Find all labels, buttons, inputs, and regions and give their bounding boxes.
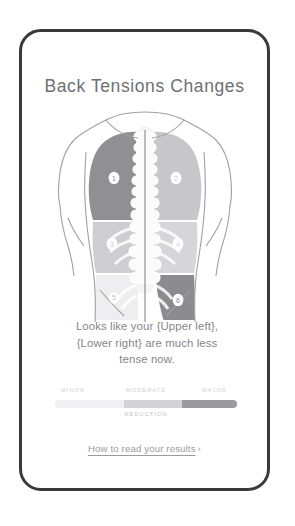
legend-segment-major xyxy=(182,400,237,408)
zone-5-marker[interactable]: 5 xyxy=(109,292,119,304)
svg-text:2: 2 xyxy=(174,175,178,182)
zone-4-marker[interactable]: 4 xyxy=(172,238,183,250)
chevron-right-icon: › xyxy=(198,443,201,454)
reduction-legend: MINOR MODERATE MAJOR REDUCTION xyxy=(55,387,237,417)
footer-link-row: How to read your results› xyxy=(22,438,267,456)
legend-label-moderate: MODERATE xyxy=(126,387,166,393)
how-to-read-results-link[interactable]: How to read your results› xyxy=(88,443,201,454)
zone-3-marker[interactable]: 3 xyxy=(106,238,117,250)
legend-label-major: MAJOR xyxy=(202,387,227,393)
svg-text:1: 1 xyxy=(112,175,116,182)
legend-gradient-bar xyxy=(55,400,237,408)
summary-line-3: tense now. xyxy=(40,351,254,368)
results-card: Back Tensions Changes xyxy=(19,29,270,491)
zone-1-marker[interactable]: 1 xyxy=(108,172,119,184)
legend-segment-moderate xyxy=(124,400,182,408)
back-tension-diagram: 1 2 3 4 5 xyxy=(38,110,252,332)
legend-label-minor: MINOR xyxy=(61,387,85,393)
svg-text:3: 3 xyxy=(110,241,114,248)
legend-labels: MINOR MODERATE MAJOR xyxy=(55,387,237,398)
svg-text:4: 4 xyxy=(176,241,180,248)
page-title: Back Tensions Changes xyxy=(22,76,267,97)
summary-line-2: {Lower right} are much less xyxy=(40,335,254,352)
svg-text:5: 5 xyxy=(112,294,116,301)
how-to-read-results-label: How to read your results xyxy=(88,443,196,454)
summary-line-1: Looks like your {Upper left}, xyxy=(40,318,254,335)
zone-2-marker[interactable]: 2 xyxy=(170,172,181,184)
svg-text:6: 6 xyxy=(176,297,180,304)
legend-caption: REDUCTION xyxy=(55,411,237,417)
legend-segment-minor xyxy=(55,400,124,408)
app-root: Back Tensions Changes xyxy=(0,0,295,526)
zone-6-marker[interactable]: 6 xyxy=(172,294,183,306)
summary-text: Looks like your {Upper left}, {Lower rig… xyxy=(40,318,254,368)
